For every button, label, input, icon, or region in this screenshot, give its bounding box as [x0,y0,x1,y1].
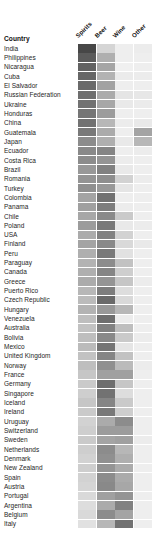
heatmap-cells [78,147,152,156]
country-label: Brazil [4,166,20,173]
heatmap-cells [78,249,152,258]
heatmap-cell-other [134,287,152,296]
heatmap-cell-beer [97,324,115,333]
heatmap-cell-other [134,277,152,286]
heatmap-cell-beer [97,398,115,407]
heatmap-cell-other [134,109,152,118]
heatmap-cells [78,109,152,118]
heatmap-cell-wine [115,473,133,482]
heatmap-cell-beer [97,81,115,90]
heatmap-cell-beer [97,277,115,286]
heatmap-cell-wine [115,296,133,305]
heatmap-cell-beer [97,305,115,314]
heatmap-cell-wine [115,221,133,230]
heatmap-cell-wine [115,482,133,491]
table-row: Switzerland [0,426,157,435]
heatmap-cell-other [134,305,152,314]
heatmap-cell-spirits [78,454,96,463]
heatmap-cell-wine [115,109,133,118]
table-row: Hungary [0,305,157,314]
country-label: Romania [4,175,30,182]
heatmap-cell-other [134,473,152,482]
heatmap-cell-beer [97,53,115,62]
table-row: Netherlands [0,445,157,454]
heatmap-cell-other [134,510,152,519]
heatmap-cell-other [134,249,152,258]
heatmap-cell-beer [97,268,115,277]
heatmap-cell-other [134,268,152,277]
heatmap-cell-wine [115,436,133,445]
heatmap-cell-spirits [78,370,96,379]
heatmap-cell-beer [97,492,115,501]
table-row: Brazil [0,165,157,174]
heatmap-cell-other [134,53,152,62]
heatmap-cells [78,212,152,221]
heatmap-cell-wine [115,464,133,473]
country-label: Paraguay [4,259,32,266]
table-row: United Kingdom [0,352,157,361]
country-label: Canada [4,268,27,275]
heatmap-cell-beer [97,361,115,370]
heatmap-cell-wine [115,259,133,268]
table-row: Russian Federation [0,91,157,100]
country-label: Russian Federation [4,91,61,98]
heatmap-cell-other [134,63,152,72]
country-label: Norway [4,362,26,369]
heatmap-cell-spirits [78,417,96,426]
heatmap-cell-beer [97,193,115,202]
heatmap-cell-beer [97,352,115,361]
heatmap-cell-spirits [78,268,96,277]
heatmap-cell-other [134,370,152,379]
heatmap-cells [78,100,152,109]
country-label: United Kingdom [4,352,51,359]
heatmap-cell-spirits [78,100,96,109]
heatmap-cell-beer [97,63,115,72]
country-label: Germany [4,380,31,387]
heatmap-cell-beer [97,72,115,81]
heatmap-cell-wine [115,128,133,137]
heatmap-cells [78,277,152,286]
country-label: Peru [4,250,18,257]
heatmap-cell-wine [115,315,133,324]
country-label: Netherlands [4,446,39,453]
country-label: Philippines [4,54,36,61]
heatmap-cell-wine [115,175,133,184]
heatmap-cell-wine [115,63,133,72]
heatmap-cells [78,287,152,296]
country-label: Sweden [4,436,28,443]
table-row: Ukraine [0,100,157,109]
table-row: Poland [0,221,157,230]
heatmap-cells [78,184,152,193]
heatmap-cell-wine [115,147,133,156]
country-label: Bolivia [4,334,23,341]
heatmap-cell-beer [97,203,115,212]
country-label: Puerto Rico [4,287,38,294]
heatmap-cell-other [134,147,152,156]
heatmap-cell-other [134,203,152,212]
column-header-wine: Wine [111,24,126,39]
heatmap-cell-other [134,91,152,100]
heatmap-cell-other [134,333,152,342]
heatmap-cell-spirits [78,72,96,81]
heatmap-cell-wine [115,277,133,286]
heatmap-cell-beer [97,296,115,305]
heatmap-cell-other [134,417,152,426]
heatmap-cell-spirits [78,81,96,90]
heatmap-cell-spirits [78,361,96,370]
heatmap-cells [78,315,152,324]
heatmap-cell-beer [97,482,115,491]
heatmap-cell-spirits [78,249,96,258]
heatmap-cell-other [134,193,152,202]
heatmap-cell-spirits [78,193,96,202]
heatmap-cell-wine [115,501,133,510]
table-row: Norway [0,361,157,370]
heatmap-cell-spirits [78,343,96,352]
heatmap-cell-beer [97,389,115,398]
table-row: Japan [0,137,157,146]
heatmap-cells [78,156,152,165]
heatmap-cells [78,324,152,333]
heatmap-cell-wine [115,426,133,435]
heatmap-cells [78,53,152,62]
heatmap-cell-beer [97,343,115,352]
heatmap-cell-wine [115,44,133,53]
